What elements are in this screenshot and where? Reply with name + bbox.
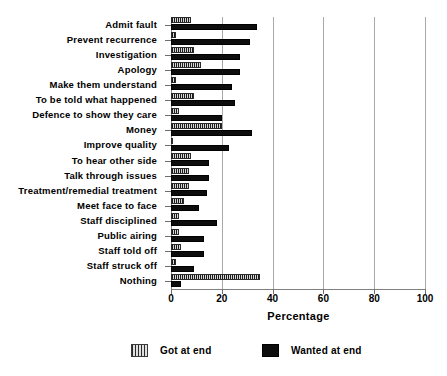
bar-group [171,168,425,184]
bar-got-at-end [171,47,194,53]
bar-got-at-end [171,213,179,219]
bar-wanted-at-end [171,100,235,106]
x-axis-tick-label: 0 [168,293,174,304]
legend-label-got-at-end: Got at end [160,345,211,356]
bar-got-at-end [171,108,179,114]
bar-series-layer [171,17,425,289]
bar-wanted-at-end [171,205,199,211]
y-axis-tick [165,130,171,131]
bar-group [171,93,425,109]
x-axis-tick-label: 60 [318,293,329,304]
bar-got-at-end [171,123,222,129]
y-axis-tick [165,55,171,56]
bar-group [171,123,425,139]
y-axis-label: To hear other side [72,153,157,169]
x-axis-tick-label: 20 [216,293,227,304]
y-axis-tick [165,115,171,116]
bar-group [171,198,425,214]
x-axis-tick-label: 100 [417,293,434,304]
bar-got-at-end [171,77,176,83]
bar-wanted-at-end [171,220,217,226]
bar-wanted-at-end [171,236,204,242]
y-axis-tick [165,40,171,41]
bar-group [171,108,425,124]
y-axis-label: Apology [118,62,157,78]
legend-swatch-hatched-icon [131,344,148,357]
legend-label-wanted-at-end: Wanted at end [291,345,362,356]
bar-group [171,244,425,260]
y-axis-label: Public airing [97,228,157,244]
bar-got-at-end [171,93,194,99]
x-axis-line [171,289,426,290]
bar-group [171,47,425,63]
bar-wanted-at-end [171,175,209,181]
bar-got-at-end [171,274,260,280]
y-axis-label: Prevent recurrence [67,32,157,48]
x-axis-tick-label: 80 [369,293,380,304]
bar-got-at-end [171,259,176,265]
y-axis-tick [165,281,171,282]
bar-group [171,229,425,245]
bar-got-at-end [171,229,179,235]
y-axis-label: Admit fault [105,17,157,33]
y-axis-label: Meet face to face [77,198,157,214]
bar-wanted-at-end [171,160,209,166]
bar-wanted-at-end [171,145,229,151]
bar-wanted-at-end [171,251,204,257]
x-axis-tick-label: 40 [267,293,278,304]
y-axis-tick [165,206,171,207]
bar-got-at-end [171,32,176,38]
bar-wanted-at-end [171,281,181,287]
chart-legend: Got at end Wanted at end [0,341,447,367]
y-axis-tick [165,176,171,177]
bar-got-at-end [171,244,181,250]
y-axis-label: Improve quality [84,137,157,153]
bar-group [171,259,425,275]
legend-swatch-solid-icon [262,344,279,357]
bar-group [171,17,425,33]
y-axis-label: Make them understand [50,77,157,93]
bar-group [171,183,425,199]
y-axis-labels: Admit faultPrevent recurrenceInvestigati… [0,17,165,289]
bar-group [171,153,425,169]
y-axis-label: Investigation [96,47,157,63]
y-axis-tick [165,161,171,162]
y-axis-label: Treatment/remedial treatment [18,183,157,199]
bar-got-at-end [171,17,191,23]
y-axis-tick [165,221,171,222]
y-axis-label: Staff struck off [87,258,157,274]
y-axis-tick [165,25,171,26]
bar-wanted-at-end [171,69,240,75]
y-axis-tick [165,70,171,71]
legend-entry-wanted-at-end: Wanted at end [262,341,362,359]
y-axis-label: Staff told off [98,243,157,259]
bar-chart: Admit faultPrevent recurrenceInvestigati… [0,0,447,376]
x-axis-tick-labels: 020406080100 [0,293,447,309]
bar-group [171,213,425,229]
bar-got-at-end [171,62,201,68]
y-axis-tick [165,145,171,146]
bar-got-at-end [171,138,173,144]
y-axis-tick [165,251,171,252]
bar-group [171,138,425,154]
y-axis-tick [165,85,171,86]
y-axis-tick [165,266,171,267]
bar-wanted-at-end [171,266,194,272]
y-axis-tick [165,236,171,237]
bar-wanted-at-end [171,130,252,136]
bar-wanted-at-end [171,84,232,90]
y-axis-label: Talk through issues [64,168,157,184]
bar-wanted-at-end [171,24,257,30]
y-axis-label: Nothing [120,273,157,289]
y-axis-tick [165,100,171,101]
bar-got-at-end [171,198,184,204]
x-axis-title: Percentage [171,310,426,322]
bar-got-at-end [171,183,189,189]
bar-group [171,62,425,78]
bar-got-at-end [171,168,189,174]
y-axis-tick [165,191,171,192]
bar-wanted-at-end [171,54,240,60]
bar-group [171,274,425,290]
y-axis-label: Money [126,122,157,138]
bar-got-at-end [171,153,191,159]
